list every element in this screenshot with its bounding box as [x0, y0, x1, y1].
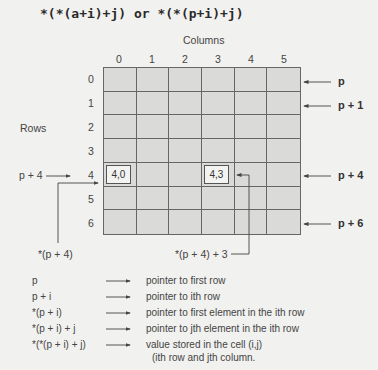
- rows-label: Rows: [20, 122, 46, 134]
- highlight-cell-4-0: 4,0: [106, 165, 131, 184]
- cell-6-3: [202, 210, 235, 234]
- cell-3-4: [235, 139, 268, 163]
- legend-expr-0: p: [32, 275, 38, 286]
- cell-6-5: [267, 210, 300, 234]
- cell-1-2: [169, 92, 202, 116]
- cell-4-2: [169, 163, 202, 187]
- cell-4-4: [235, 163, 268, 187]
- cell-4-5: [267, 163, 300, 187]
- cell-0-4: [235, 68, 268, 92]
- col-index-3: 3: [215, 53, 221, 65]
- right-pointer-p6: p + 6: [338, 217, 363, 229]
- col-index-1: 1: [149, 53, 155, 65]
- right-pointer-p: p: [338, 75, 345, 87]
- formula-title: *(*(a+i)+j) or *(*(p+i)+j): [40, 6, 244, 21]
- row-index-4: 4: [88, 169, 94, 181]
- cell-3-1: [137, 139, 170, 163]
- legend-desc-0: pointer to first row: [146, 275, 225, 286]
- cell-5-3: [202, 187, 235, 211]
- cell-5-4: [235, 187, 268, 211]
- cell-3-3: [202, 139, 235, 163]
- cell-1-1: [137, 92, 170, 116]
- cell-5-1: [137, 187, 170, 211]
- col-index-5: 5: [281, 53, 287, 65]
- legend-expr-4: *(*(p + i) + j): [32, 339, 86, 350]
- legend-expr-1: p + i: [32, 291, 51, 302]
- legend-expr-3: *(p + i) + j: [32, 323, 75, 334]
- bottom-pointer-deref-p4: *(p + 4): [38, 248, 73, 260]
- legend-desc-2: pointer to first element in the ith row: [146, 307, 304, 318]
- cell-4-3: 4,3: [202, 163, 235, 187]
- array-grid: 4,04,3: [103, 67, 301, 235]
- cell-2-2: [169, 115, 202, 139]
- legend-expr-2: *(p + i): [32, 307, 62, 318]
- cell-1-0: [104, 92, 137, 116]
- cell-0-5: [267, 68, 300, 92]
- cell-1-5: [267, 92, 300, 116]
- bottom-pointer-deref-p4-plus3: *(p + 4) + 3: [175, 248, 228, 260]
- cell-2-0: [104, 115, 137, 139]
- row-index-1: 1: [88, 97, 94, 109]
- cell-3-0: [104, 139, 137, 163]
- arrow-deref-p4: [58, 183, 98, 243]
- cell-0-0: [104, 68, 137, 92]
- left-pointer-label: p + 4: [19, 169, 43, 181]
- legend-desc-1: pointer to ith row: [146, 291, 220, 302]
- legend-desc-3: pointer to jth element in the ith row: [146, 323, 299, 334]
- cell-4-1: [137, 163, 170, 187]
- row-index-2: 2: [88, 121, 94, 133]
- cell-0-2: [169, 68, 202, 92]
- row-index-3: 3: [88, 145, 94, 157]
- col-index-2: 2: [182, 53, 188, 65]
- cell-0-3: [202, 68, 235, 92]
- cell-2-5: [267, 115, 300, 139]
- cell-1-3: [202, 92, 235, 116]
- cell-3-2: [169, 139, 202, 163]
- cell-2-4: [235, 115, 268, 139]
- cell-5-0: [104, 187, 137, 211]
- col-index-4: 4: [248, 53, 254, 65]
- legend-desc-4: value stored in the cell (i,j): [146, 339, 262, 350]
- cell-4-0: 4,0: [104, 163, 137, 187]
- right-pointer-p1: p + 1: [338, 99, 363, 111]
- row-index-0: 0: [88, 73, 94, 85]
- cell-2-3: [202, 115, 235, 139]
- cell-5-5: [267, 187, 300, 211]
- row-index-5: 5: [88, 193, 94, 205]
- cell-6-4: [235, 210, 268, 234]
- cell-3-5: [267, 139, 300, 163]
- cell-0-1: [137, 68, 170, 92]
- cell-2-1: [137, 115, 170, 139]
- cell-6-2: [169, 210, 202, 234]
- row-index-6: 6: [88, 217, 94, 229]
- cell-6-0: [104, 210, 137, 234]
- col-index-0: 0: [116, 53, 122, 65]
- highlight-cell-4-3: 4,3: [204, 165, 229, 184]
- right-pointer-p4: p + 4: [338, 169, 363, 181]
- cell-5-2: [169, 187, 202, 211]
- columns-label: Columns: [183, 34, 224, 46]
- cell-1-4: [235, 92, 268, 116]
- cell-6-1: [137, 210, 170, 234]
- legend-desc-4-cont: (ith row and jth column.: [152, 352, 255, 363]
